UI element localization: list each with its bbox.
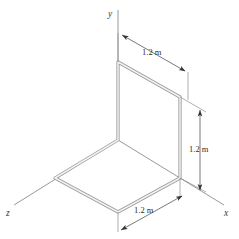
top-dimension-label: 1.2 m <box>142 47 162 57</box>
x-axis-label: x <box>223 208 229 218</box>
dimension-right-height: 1.2 m <box>180 97 209 192</box>
bottom-dimension-label: 1.2 m <box>134 205 154 215</box>
figure-container: 1.2 m 1.2 m 1.2 m y x z <box>0 0 239 239</box>
wire-frame <box>55 62 180 212</box>
wire-diagram-svg: 1.2 m 1.2 m 1.2 m y x z <box>0 0 239 239</box>
right-dim-ext-top <box>180 97 206 112</box>
right-dim-ext-bottom <box>180 178 206 192</box>
y-axis-label: y <box>107 9 113 19</box>
z-axis-label: z <box>5 208 10 218</box>
right-dimension-label: 1.2 m <box>189 144 209 154</box>
